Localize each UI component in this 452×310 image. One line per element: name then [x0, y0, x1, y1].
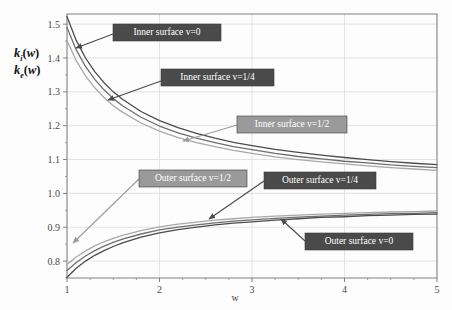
annotation-arrows	[73, 34, 305, 243]
annotation-label: Outer surface v=1/4	[264, 172, 376, 189]
x-tick-label: 2	[157, 284, 162, 295]
annotation-arrow	[281, 219, 305, 241]
y-axis-label-line2: ke(w)	[14, 63, 41, 80]
annotation-label: Outer surface v=0	[305, 233, 413, 250]
x-tick-label: 1	[65, 284, 70, 295]
y-tick-label: 1.4	[48, 53, 61, 64]
annotation-arrow	[76, 34, 113, 48]
y-tick-label: 1.0	[48, 188, 61, 199]
annotation-text: Inner surface v=1/2	[255, 119, 330, 129]
annotation-label: Inner surface v=1/2	[237, 116, 347, 133]
x-tick-label: 3	[250, 284, 255, 295]
tick-labels: 0.80.91.01.11.21.31.41.512345	[48, 19, 440, 295]
y-tick-label: 0.9	[48, 222, 61, 233]
y-tick-label: 0.8	[48, 256, 61, 267]
annotation-label: Inner surface v=0	[113, 24, 221, 41]
y-axis-label: ki(w) ke(w)	[14, 46, 41, 81]
y-tick-label: 1.3	[48, 86, 61, 97]
annotation-text: Outer surface v=1/4	[282, 175, 358, 185]
x-tick-label: 4	[342, 284, 347, 295]
annotation-text: Inner surface v=1/4	[180, 72, 255, 82]
x-axis-title: w	[231, 292, 239, 303]
annotation-text: Outer surface v=0	[325, 236, 394, 246]
y-tick-label: 1.1	[48, 154, 61, 165]
annotation-label: Outer surface v=1/2	[139, 170, 247, 187]
y-tick-label: 1.5	[48, 19, 61, 30]
y-axis-label-line1: ki(w)	[14, 46, 41, 63]
plot-area: 0.80.91.01.11.21.31.41.512345 Inner surf…	[0, 0, 452, 310]
annotation-arrow	[183, 125, 237, 141]
annotation-text: Outer surface v=1/2	[155, 173, 231, 183]
annotation-arrow	[108, 81, 161, 100]
annotation-text: Inner surface v=0	[133, 27, 200, 37]
annotation-label: Inner surface v=1/4	[161, 69, 274, 86]
x-tick-label: 5	[435, 284, 440, 295]
y-tick-label: 1.2	[48, 120, 61, 131]
chart-figure: ki(w) ke(w) 0.80.91.01.11.21.31.41.51234…	[0, 0, 452, 310]
